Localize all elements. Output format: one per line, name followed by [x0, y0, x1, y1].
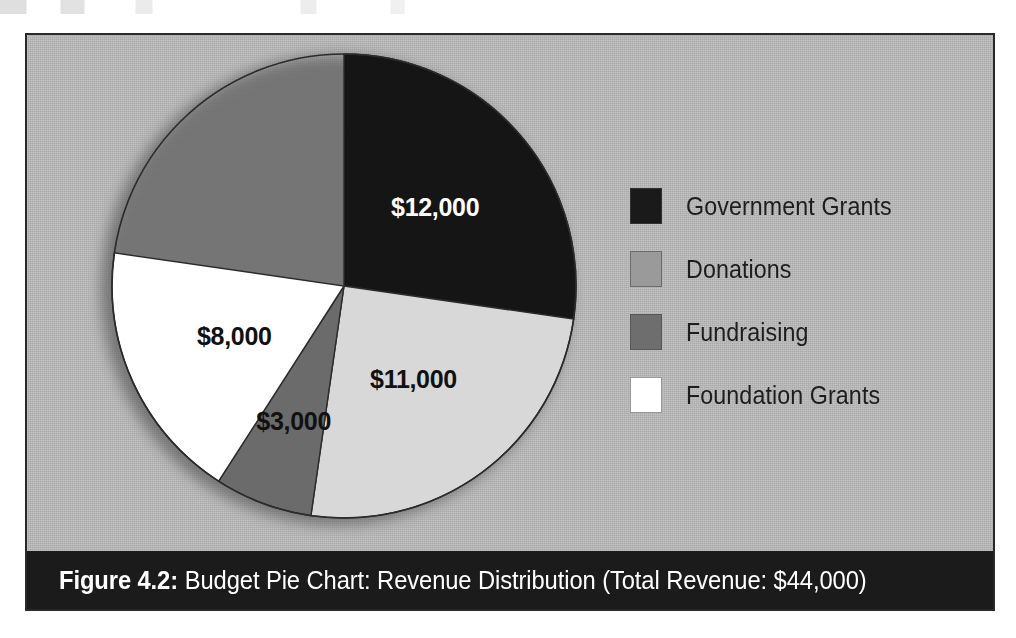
legend-label-government-grants: Government Grants: [686, 192, 892, 221]
pie-slice-value-government-grants: $12,000: [391, 193, 479, 221]
legend-item-foundation-grants[interactable]: Foundation Grants: [630, 374, 960, 416]
legend-item-government-grants[interactable]: Government Grants: [630, 185, 960, 227]
legend-swatch-fundraising: [630, 314, 662, 350]
legend-label-foundation-grants: Foundation Grants: [686, 381, 880, 410]
pie-chart-svg: $12,000$11,000$3,000$8,000: [109, 51, 579, 521]
legend-label-fundraising: Fundraising: [686, 318, 809, 347]
legend-item-fundraising[interactable]: Fundraising: [630, 311, 960, 353]
pie-chart: $12,000$11,000$3,000$8,000: [109, 51, 579, 521]
legend-swatch-government-grants: [630, 188, 662, 224]
figure-caption: Figure 4.2:Budget Pie Chart: Revenue Dis…: [59, 566, 867, 595]
legend-label-donations: Donations: [686, 255, 792, 284]
pie-slice-donations[interactable]: [311, 286, 574, 518]
figure-number: Figure 4.2:: [59, 566, 178, 594]
legend-swatch-foundation-grants: [630, 377, 662, 413]
legend-item-donations[interactable]: Donations: [630, 248, 960, 290]
scan-bleed-artifact: [0, 0, 1016, 14]
figure-caption-bar: Figure 4.2:Budget Pie Chart: Revenue Dis…: [27, 551, 993, 609]
pie-slice-value-fundraising: $3,000: [256, 407, 331, 435]
figure-title: Budget Pie Chart: Revenue Distribution (…: [185, 566, 867, 594]
pie-slice-group: [112, 54, 576, 518]
chart-legend: Government Grants Donations Fundraising …: [630, 185, 960, 437]
legend-swatch-donations: [630, 251, 662, 287]
pie-slice-government-grants[interactable]: [344, 54, 576, 319]
figure-panel: $12,000$11,000$3,000$8,000 Government Gr…: [25, 33, 995, 611]
pie-slice-value-foundation-grants: $8,000: [197, 322, 272, 350]
pie-slice-value-donations: $11,000: [370, 365, 457, 393]
